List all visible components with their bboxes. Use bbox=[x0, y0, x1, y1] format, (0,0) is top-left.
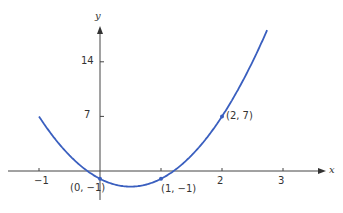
point-label: (1, −1) bbox=[161, 183, 196, 194]
y-tick-label: 7 bbox=[84, 109, 90, 120]
x-tick-label: 2 bbox=[217, 175, 223, 186]
x-axis-label: x bbox=[329, 164, 335, 175]
y-axis-label: y bbox=[95, 10, 101, 21]
parabola-curve bbox=[39, 30, 267, 187]
y-tick-label: 14 bbox=[81, 55, 94, 66]
parabola-chart bbox=[0, 0, 343, 213]
point-label: (2, 7) bbox=[226, 110, 253, 121]
point-label: (0, −1) bbox=[70, 182, 105, 193]
x-tick-label: 3 bbox=[278, 175, 284, 186]
x-tick-label: −1 bbox=[34, 175, 49, 186]
